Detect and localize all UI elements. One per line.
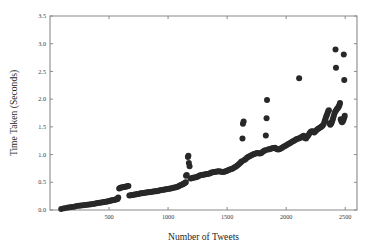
y-tick-label: 0.5 xyxy=(38,178,46,185)
scatter-point xyxy=(337,100,343,106)
x-axis-label: Number of Tweets xyxy=(168,231,239,242)
scatter-point xyxy=(333,47,339,53)
scatter-point xyxy=(185,153,191,159)
scatter-point xyxy=(263,132,269,138)
chart-figure: 0.00.51.01.52.02.53.03.5 500100015002000… xyxy=(0,0,373,248)
scatter-point xyxy=(187,163,193,169)
scatter-point xyxy=(183,179,189,185)
y-tick-label: 1.5 xyxy=(38,123,46,130)
y-tick-label: 2.5 xyxy=(38,68,46,75)
scatter-point xyxy=(341,77,347,83)
y-tick-label: 2.0 xyxy=(38,95,46,102)
scatter-point xyxy=(326,107,332,113)
scatter-plot-canvas: 0.00.51.01.52.02.53.03.5 500100015002000… xyxy=(0,0,373,248)
scatter-point xyxy=(264,97,270,103)
x-tick-label: 500 xyxy=(104,213,113,220)
scatter-point xyxy=(241,119,247,125)
scatter-point xyxy=(342,113,348,119)
scatter-point xyxy=(239,136,245,142)
scatter-point xyxy=(341,52,347,58)
y-tick-label: 3.0 xyxy=(38,40,46,47)
x-tick-label: 1000 xyxy=(162,213,174,220)
y-tick-label: 1.0 xyxy=(38,151,46,158)
scatter-point xyxy=(115,195,121,201)
scatter-point xyxy=(264,115,270,121)
scatter-point xyxy=(333,65,339,71)
y-tick-label: 3.5 xyxy=(38,12,46,19)
x-tick-label: 2500 xyxy=(339,213,351,220)
x-tick-label: 2000 xyxy=(280,213,292,220)
y-tick-label: 0.0 xyxy=(38,206,46,213)
scatter-point xyxy=(296,75,302,81)
scatter-point xyxy=(125,183,131,189)
x-tick-label: 1500 xyxy=(221,213,233,220)
y-axis-label: Time Taken (Seconds) xyxy=(8,70,20,156)
figure-background xyxy=(0,0,373,248)
